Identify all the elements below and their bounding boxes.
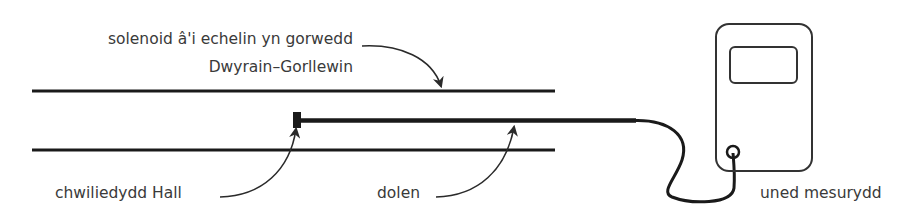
meter-display-screen [730,47,797,83]
meter-unit-label: uned mesurydd [760,184,882,202]
diagram-svg: solenoid â'i echelin yn gorwedd Dwyrain–… [0,0,918,215]
hall-probe-label: chwiliedydd Hall [55,184,182,202]
solenoid-label-line2: Dwyrain–Gorllewin [209,58,353,76]
hall-probe-arrow [220,129,296,197]
meter-unit [716,24,812,171]
cable [636,120,734,201]
solenoid-arrow [362,46,441,86]
loop-arrow [436,127,514,197]
loop-label: dolen [377,184,420,202]
hall-probe-head [293,112,301,128]
diagram-canvas: solenoid â'i echelin yn gorwedd Dwyrain–… [0,0,918,215]
solenoid-label-line1: solenoid â'i echelin yn gorwedd [108,30,353,48]
